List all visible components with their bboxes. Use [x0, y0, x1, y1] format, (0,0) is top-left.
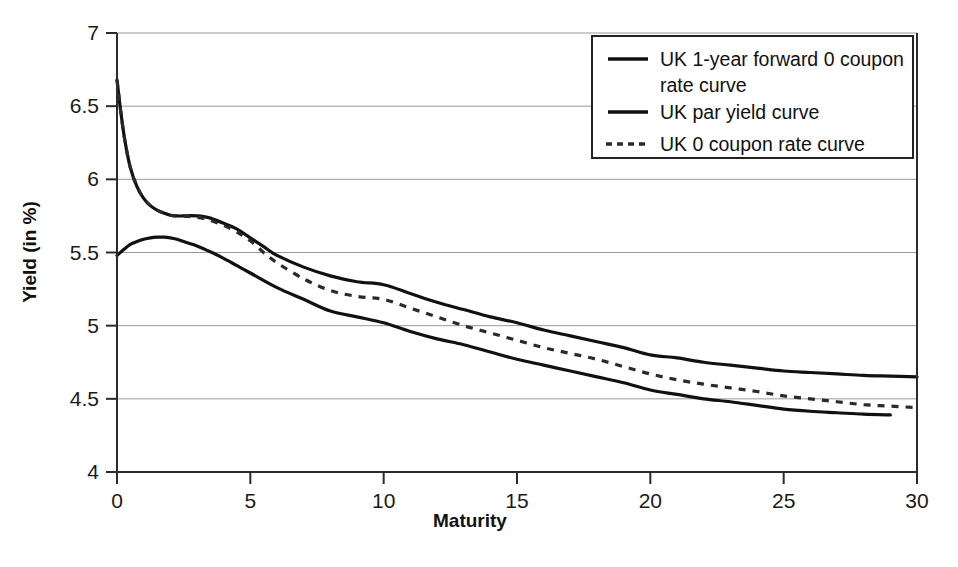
x-tick-label-25: 25 [772, 489, 795, 512]
legend-label-forward-line2: rate curve [660, 74, 747, 96]
x-tick-label-0: 0 [111, 489, 123, 512]
legend-label-forward-line1: UK 1-year forward 0 coupon [660, 48, 904, 70]
yield-curve-chart: 44.555.566.57 051015202530 Maturity Yiel… [0, 0, 958, 567]
legend-label-zerocoupon: UK 0 coupon rate curve [660, 133, 865, 155]
x-tick-label-20: 20 [639, 489, 662, 512]
chart-legend: UK 1-year forward 0 coupon rate curve UK… [592, 36, 913, 158]
x-tick-label-15: 15 [505, 489, 528, 512]
y-tick-label-5: 5 [87, 314, 99, 337]
x-tick-group: 051015202530 [111, 472, 929, 512]
y-tick-label-4.5: 4.5 [70, 387, 99, 410]
y-tick-group: 44.555.566.57 [70, 21, 117, 483]
x-tick-label-5: 5 [244, 489, 256, 512]
x-tick-label-10: 10 [372, 489, 395, 512]
chart-figure: 44.555.566.57 051015202530 Maturity Yiel… [0, 0, 958, 567]
y-tick-label-7: 7 [87, 21, 99, 44]
y-axis-title: Yield (in %) [19, 201, 40, 303]
y-tick-label-6.5: 6.5 [70, 94, 99, 117]
x-tick-label-30: 30 [905, 489, 928, 512]
y-tick-label-5.5: 5.5 [70, 241, 99, 264]
y-tick-label-4: 4 [87, 460, 99, 483]
y-tick-label-6: 6 [87, 167, 99, 190]
x-axis-title: Maturity [433, 510, 507, 531]
legend-label-par: UK par yield curve [660, 101, 819, 123]
